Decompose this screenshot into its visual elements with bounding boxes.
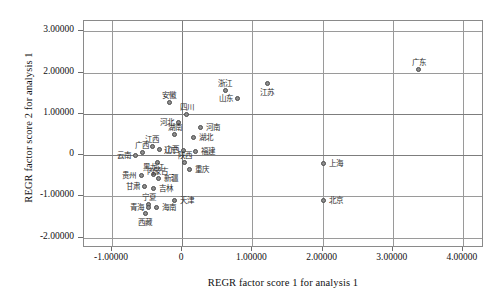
plot-area: 广东江苏浙江山东安徽四川河北河南湖南湖北江西山西辽宁福建广西云南内蒙古陕西重庆黑…: [83, 20, 483, 247]
x-axis-title: REGR factor score 1 for analysis 1: [83, 277, 483, 288]
data-point-label: 福建: [201, 148, 215, 156]
data-point-label: 湖北: [199, 134, 213, 142]
data-point[interactable]: [321, 198, 326, 203]
data-point-label: 山东: [219, 95, 233, 103]
data-point-label: 黑龙江: [143, 164, 164, 172]
data-point[interactable]: [167, 100, 172, 105]
data-point[interactable]: [154, 205, 159, 210]
data-point-label: 安徽: [162, 92, 176, 100]
x-tick-label: 3.00000: [352, 252, 432, 262]
gridline-horizontal: [84, 73, 482, 74]
data-point[interactable]: [140, 150, 145, 155]
gridline-horizontal: [84, 155, 482, 156]
data-point-label: 上海: [329, 160, 343, 168]
y-tick-label: -2.00000: [4, 231, 74, 241]
y-tick-label: 0: [4, 148, 74, 158]
data-point[interactable]: [198, 125, 203, 130]
y-tick-mark: [78, 72, 83, 73]
data-point[interactable]: [142, 184, 147, 189]
data-point[interactable]: [182, 160, 187, 165]
data-point-label: 重庆: [195, 166, 209, 174]
x-tick-label: 2.00000: [282, 252, 362, 262]
x-tick-mark: [392, 247, 393, 251]
gridline-vertical: [252, 21, 253, 246]
data-point[interactable]: [157, 147, 162, 152]
y-tick-mark: [78, 154, 83, 155]
data-point-label: 新疆: [164, 175, 178, 183]
x-tick-mark: [111, 247, 112, 251]
x-tick-label: 1.00000: [211, 252, 291, 262]
data-point[interactable]: [193, 149, 198, 154]
y-tick-label: 1.00000: [4, 107, 74, 117]
data-point[interactable]: [150, 144, 155, 149]
gridline-vertical: [323, 21, 324, 246]
x-tick-mark: [251, 247, 252, 251]
y-tick-mark: [78, 195, 83, 196]
data-point[interactable]: [321, 161, 326, 166]
data-point[interactable]: [265, 81, 270, 86]
data-point-label: 天津: [180, 197, 194, 205]
y-tick-label: 2.00000: [4, 66, 74, 76]
scatter-chart: REGR factor score 2 for analysis 1 广东江苏浙…: [0, 0, 504, 301]
data-point-label: 宁夏: [142, 194, 156, 202]
y-tick-label: -1.00000: [4, 189, 74, 199]
gridline-vertical: [393, 21, 394, 246]
data-point-label: 陕西: [178, 152, 192, 160]
data-point-label: 北京: [329, 197, 343, 205]
data-point-label: 湖南: [168, 124, 182, 132]
x-tick-label: -1.00000: [71, 252, 151, 262]
x-tick-label: 4.00000: [422, 252, 502, 262]
data-point-label: 青海: [130, 204, 144, 212]
y-tick-mark: [78, 30, 83, 31]
x-tick-label: 0: [141, 252, 221, 262]
data-point[interactable]: [133, 153, 138, 158]
gridline-horizontal: [84, 238, 482, 239]
gridline-vertical: [182, 21, 183, 246]
gridline-vertical: [463, 21, 464, 246]
gridline-horizontal: [84, 31, 482, 32]
data-point[interactable]: [235, 96, 240, 101]
data-point-label: 贵州: [122, 172, 136, 180]
y-tick-label: 3.00000: [4, 24, 74, 34]
data-point[interactable]: [146, 205, 151, 210]
y-tick-mark: [78, 237, 83, 238]
gridline-vertical: [112, 21, 113, 246]
data-point-label: 辽宁: [164, 147, 178, 155]
data-point[interactable]: [416, 67, 421, 72]
data-point-label: 四川: [180, 104, 194, 112]
y-axis-title: REGR factor score 2 for analysis 1: [23, 8, 34, 248]
data-point[interactable]: [191, 135, 196, 140]
data-point-label: 江苏: [260, 89, 274, 97]
data-point-label: 广东: [412, 59, 426, 67]
data-point[interactable]: [184, 112, 189, 117]
data-point-label: 云南: [117, 152, 131, 160]
gridline-horizontal: [84, 114, 482, 115]
data-point-label: 海南: [162, 204, 176, 212]
data-point-label: 广西: [135, 142, 149, 150]
x-tick-mark: [462, 247, 463, 251]
data-point-label: 甘肃: [126, 183, 140, 191]
data-point-label: 吉林: [159, 185, 173, 193]
data-point-label: 西藏: [138, 219, 152, 227]
data-point[interactable]: [187, 167, 192, 172]
data-point[interactable]: [139, 173, 144, 178]
x-tick-mark: [322, 247, 323, 251]
data-point-label: 河南: [206, 124, 220, 132]
y-tick-mark: [78, 113, 83, 114]
x-tick-mark: [181, 247, 182, 251]
data-point[interactable]: [172, 132, 177, 137]
data-point-label: 浙江: [218, 80, 232, 88]
data-point[interactable]: [223, 88, 228, 93]
data-point[interactable]: [156, 176, 161, 181]
data-point[interactable]: [151, 186, 156, 191]
